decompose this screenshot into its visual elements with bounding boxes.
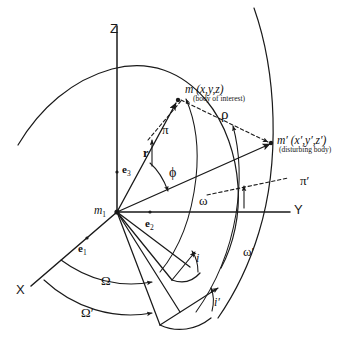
x-axis-label: X [16,283,25,297]
phi-angle-arc [150,163,168,191]
origin-mass-subscript: 1 [102,210,106,219]
basis-vector-e3-label: e3 [122,164,131,178]
basis-e1-subscript: 1 [83,248,87,257]
body-m-dot [176,98,180,102]
z-axis-label: Z [110,22,118,36]
inclination-i-prime-label: i′ [214,296,220,309]
e1-tick [85,236,88,239]
e3-tick [115,170,118,173]
basis-e2-subscript: 2 [150,223,154,232]
basis-e3-subscript: 3 [127,169,131,178]
pi-label: π [162,123,169,137]
body-of-interest-label: m (x,y,z) (body of interest) [185,83,245,103]
radius-vector-label: r [143,147,149,160]
body-m-prime-note: (disturbing body) [279,146,331,154]
disturbing-body-label: m′ (x′,y′,z′) (disturbing body) [277,134,331,154]
node-omega-prime-label: Ω′ [81,306,94,320]
e2-tick [148,210,151,213]
y-axis-label: Y [294,203,303,217]
omega-prime-node-arc [44,280,152,315]
phi-angle-arm [142,155,168,191]
inclination-i-label: i [196,252,199,265]
celestial-geometry-diagram: Z Y X m1 e3 e2 e1 r m (x,y,z) (body of i… [0,0,348,352]
body-m-note: (body of interest) [193,95,245,103]
omega-angle-label: ω [199,194,208,208]
vector-to-disturbing-body [117,144,270,212]
origin-mass-label: m1 [94,204,106,219]
node-omega-label: Ω [101,274,111,288]
body-m-prime-dot [269,141,273,145]
pi-prime-direction-line [207,178,288,195]
pi-prime-label: π′ [300,174,309,188]
basis-vector-e2-label: e2 [145,218,154,232]
omega-prime-angle-label: ω′ [243,245,254,259]
phi-angle-label: ϕ [169,166,176,181]
basis-vector-e1-label: e1 [78,243,87,257]
separation-rho-label: ρ [221,107,229,123]
